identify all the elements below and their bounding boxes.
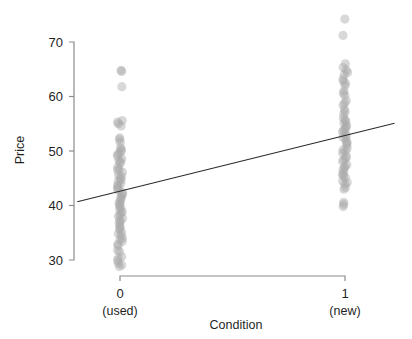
x-axis-title: Condition [210,318,263,332]
y-tick-label: 50 [49,144,63,159]
data-point [117,121,126,130]
y-axis: 3040506070 [49,35,74,268]
x-tick-label: 0 [116,286,123,301]
x-tick-sublabel: (new) [329,304,360,318]
x-axis: 0(used)1(new) [102,276,360,318]
data-point [115,262,124,271]
y-axis-title: Price [13,136,27,165]
plot-canvas: 3040506070 0(used)1(new) Price Condition [0,0,412,339]
data-point [340,15,349,24]
data-point [339,202,348,211]
y-tick-label: 70 [49,35,63,50]
data-point [338,31,347,40]
data-point [339,185,348,194]
x-tick-label: 1 [341,286,348,301]
x-tick-sublabel: (used) [102,304,137,318]
x-axis-line [120,276,345,281]
data-point [117,82,126,91]
y-tick-label: 30 [49,253,63,268]
point-group-0 [113,66,128,271]
data-point [117,67,126,76]
point-group-1 [338,15,352,212]
scatter-plot-figure: 3040506070 0(used)1(new) Price Condition [0,0,412,339]
y-tick-label: 40 [49,198,63,213]
y-tick-label: 60 [49,89,63,104]
